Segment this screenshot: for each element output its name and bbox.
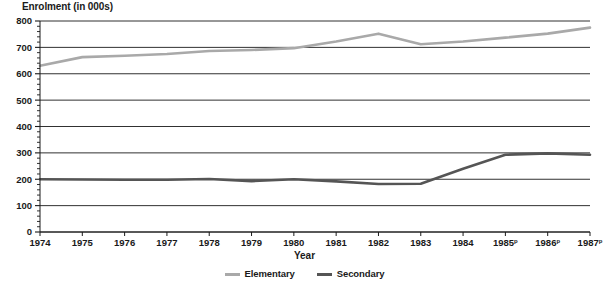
x-axis-title: Year	[0, 250, 609, 261]
y-tick-label: 300	[16, 147, 32, 158]
x-tick-label: 1987p	[578, 237, 603, 248]
x-tick-label: 1980	[283, 237, 304, 248]
x-tick-label: 1974	[29, 237, 51, 248]
enrolment-line-chart: Enrolment (in 000s) 01002003004005006007…	[0, 0, 609, 296]
series-line-elementary	[40, 28, 590, 66]
y-axis-tick-labels: 0100200300400500600700800	[16, 15, 32, 237]
x-axis-tick-marks	[40, 232, 590, 236]
legend-swatch-elementary	[225, 273, 240, 276]
gridlines	[40, 21, 590, 232]
legend-item-elementary[interactable]: Elementary	[225, 269, 295, 279]
x-tick-label: 1983	[410, 237, 431, 248]
legend-label: Elementary	[245, 269, 295, 279]
y-tick-label: 200	[16, 174, 32, 185]
x-tick-label: 1986p	[535, 237, 560, 248]
y-tick-label: 100	[16, 200, 32, 211]
y-tick-label: 700	[16, 42, 32, 53]
x-tick-label: 1984	[453, 237, 475, 248]
x-tick-label: 1978	[199, 237, 220, 248]
x-axis-tick-labels: 1974197519761977197819791980198119821983…	[29, 237, 602, 248]
x-tick-label: 1982	[368, 237, 389, 248]
x-tick-label: 1977	[156, 237, 177, 248]
chart-legend: ElementarySecondary	[0, 269, 609, 279]
legend-label: Secondary	[337, 269, 385, 279]
legend-swatch-secondary	[317, 273, 332, 276]
y-tick-label: 600	[16, 68, 32, 79]
y-tick-label: 0	[27, 226, 32, 237]
chart-plot-area: 0100200300400500600700800 19741975197619…	[0, 0, 609, 250]
y-tick-label: 500	[16, 95, 32, 106]
y-tick-label: 400	[16, 121, 32, 132]
x-tick-label: 1976	[114, 237, 135, 248]
x-tick-label: 1985p	[493, 237, 518, 248]
x-tick-label: 1975	[72, 237, 94, 248]
legend-item-secondary[interactable]: Secondary	[317, 269, 385, 279]
data-series-lines	[40, 28, 590, 184]
x-tick-label: 1979	[241, 237, 262, 248]
y-tick-label: 800	[16, 15, 32, 26]
x-tick-label: 1981	[326, 237, 348, 248]
